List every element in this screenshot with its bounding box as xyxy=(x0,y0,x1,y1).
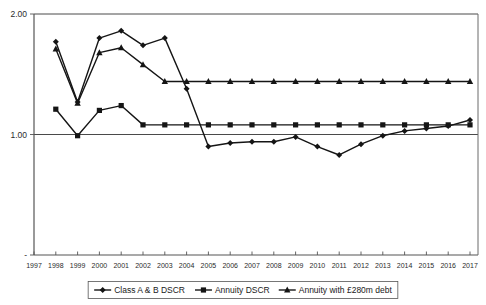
legend-item-label: Class A & B DSCR xyxy=(114,285,185,295)
x-tick-label: 2014 xyxy=(397,262,413,269)
x-axis-ticks xyxy=(34,252,470,256)
data-point-square xyxy=(315,122,320,127)
legend-item-label: Annuity DSCR xyxy=(215,285,270,295)
data-point-square xyxy=(467,122,472,127)
x-tick-label: 2009 xyxy=(288,262,304,269)
data-point-square xyxy=(402,122,407,127)
x-tick-label: 2002 xyxy=(135,262,151,269)
data-point-square xyxy=(53,107,58,112)
x-tick-label: 2013 xyxy=(375,262,391,269)
x-tick-label: 1998 xyxy=(48,262,64,269)
x-tick-label: 2016 xyxy=(440,262,456,269)
data-point-square xyxy=(358,122,363,127)
y-tick-label: 1.00 xyxy=(10,130,27,140)
data-point-square xyxy=(75,133,80,138)
data-point-square xyxy=(380,122,385,127)
x-tick-label: 2000 xyxy=(92,262,108,269)
chart-legend: Class A & B DSCRAnnuity DSCRAnnuity with… xyxy=(88,282,398,299)
x-tick-label: 2011 xyxy=(332,262,347,269)
data-point-square xyxy=(206,122,211,127)
x-tick-label: 2004 xyxy=(179,262,195,269)
data-point-square xyxy=(184,122,189,127)
x-tick-label: 2008 xyxy=(266,262,282,269)
data-point-square xyxy=(140,122,145,127)
data-point-square xyxy=(228,122,233,127)
data-point-square xyxy=(424,122,429,127)
x-tick-label: 1997 xyxy=(26,262,42,269)
x-tick-label: 2017 xyxy=(462,262,478,269)
chart-background xyxy=(0,0,486,305)
data-point-square xyxy=(97,108,102,113)
x-tick-label: 2005 xyxy=(201,262,217,269)
x-tick-label: 2010 xyxy=(310,262,326,269)
x-tick-label: 2015 xyxy=(419,262,435,269)
x-tick-label: 1999 xyxy=(70,262,86,269)
x-tick-label: 2003 xyxy=(157,262,173,269)
y-tick-label: 2.00 xyxy=(10,9,27,19)
chart-container: 2.001.00- 199719981999200020012002200320… xyxy=(0,0,486,305)
x-axis-labels: 1997199819992000200120022003200420052006… xyxy=(26,262,478,269)
x-tick-label: 2001 xyxy=(113,262,129,269)
x-tick-label: 2012 xyxy=(353,262,369,269)
legend-marker-square-icon xyxy=(201,287,206,292)
legend-item-label: Annuity with £280m debt xyxy=(299,285,393,295)
y-tick-label: - xyxy=(24,250,27,260)
data-point-square xyxy=(162,122,167,127)
x-tick-label: 2007 xyxy=(244,262,260,269)
data-point-square xyxy=(249,122,254,127)
data-point-square xyxy=(293,122,298,127)
data-point-square xyxy=(271,122,276,127)
x-tick-label: 2006 xyxy=(222,262,238,269)
data-point-square xyxy=(337,122,342,127)
data-point-square xyxy=(446,122,451,127)
dscr-line-chart: 2.001.00- 199719981999200020012002200320… xyxy=(0,0,486,305)
data-point-square xyxy=(119,103,124,108)
